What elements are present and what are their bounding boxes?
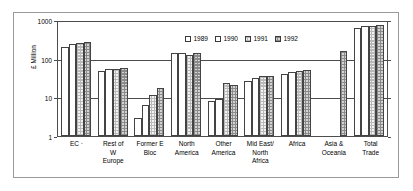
y-axis-tick-mark-right xyxy=(388,98,391,99)
chart-legend: 1989199019911992 xyxy=(185,35,298,42)
bar[interactable] xyxy=(61,47,69,136)
bar[interactable] xyxy=(244,81,252,136)
chart-figure: £ Million 1000100101 1989199019911992 EC… xyxy=(13,12,399,178)
bar[interactable] xyxy=(149,95,157,136)
bar[interactable] xyxy=(142,105,150,136)
bar[interactable] xyxy=(369,26,377,136)
x-axis-category-label: OtherAmerica xyxy=(205,140,242,166)
legend-swatch-icon xyxy=(215,36,221,42)
legend-label: 1992 xyxy=(283,35,297,42)
bar[interactable] xyxy=(340,51,348,136)
bar[interactable] xyxy=(84,42,92,136)
bar[interactable] xyxy=(157,88,165,136)
x-axis-label-line: EC · xyxy=(58,140,95,149)
x-axis-label-line: America xyxy=(205,149,242,158)
x-axis-category-label: EC · xyxy=(58,140,95,166)
y-axis-tick-mark-right xyxy=(388,21,391,22)
bar[interactable] xyxy=(98,71,106,136)
x-axis-label-line: Asia & xyxy=(315,140,352,149)
legend-entry[interactable]: 1989 xyxy=(185,35,208,42)
legend-swatch-icon xyxy=(185,36,191,42)
x-axis-label-line: Total xyxy=(352,140,389,149)
bar-group xyxy=(58,21,95,136)
y-axis-tick-mark-right xyxy=(388,137,391,138)
legend-entry[interactable]: 1992 xyxy=(275,35,298,42)
bar[interactable] xyxy=(267,76,275,136)
bar[interactable] xyxy=(230,85,238,136)
legend-swatch-icon xyxy=(275,36,281,42)
legend-label: 1991 xyxy=(253,35,267,42)
x-axis-label-line: Europe xyxy=(95,157,132,166)
legend-label: 1990 xyxy=(223,35,237,42)
x-axis-label-line: Former E xyxy=(132,140,169,149)
y-axis-tick-mark xyxy=(54,60,57,61)
y-axis-tick-mark-right xyxy=(388,60,391,61)
bar[interactable] xyxy=(76,43,84,136)
bar[interactable] xyxy=(303,70,311,136)
x-axis-category-label: Asia &Oceania xyxy=(315,140,352,166)
x-axis-category-label: TotalTrade xyxy=(352,140,389,166)
bar[interactable] xyxy=(69,44,77,136)
bar-group xyxy=(351,21,388,136)
y-axis-tick-label: 10 xyxy=(45,95,52,102)
x-axis-category-label: Africa xyxy=(279,140,316,166)
x-axis-category-label: Rest ofWEurope xyxy=(95,140,132,166)
plot-area: 1000100101 1989199019911992 xyxy=(57,21,388,137)
x-axis-label-line: North xyxy=(242,149,279,158)
bar[interactable] xyxy=(223,83,231,136)
bar[interactable] xyxy=(193,53,201,136)
bar[interactable] xyxy=(178,53,186,136)
bar-group xyxy=(131,21,168,136)
x-axis-label-line: Africa xyxy=(242,157,279,166)
legend-swatch-icon xyxy=(245,36,251,42)
x-axis-labels: EC ·Rest ofWEuropeFormer EBlocNorthAmeri… xyxy=(58,140,389,166)
x-axis-category-label: NorthAmerica xyxy=(168,140,205,166)
y-axis-tick-mark xyxy=(54,137,57,138)
x-axis-label-line: North xyxy=(168,140,205,149)
bar[interactable] xyxy=(252,78,260,136)
bar[interactable] xyxy=(259,76,267,136)
bar[interactable] xyxy=(296,71,304,136)
y-axis-tick-label: 1 xyxy=(48,134,52,141)
legend-label: 1989 xyxy=(194,35,208,42)
x-axis-label-line: Rest of xyxy=(95,140,132,149)
y-axis-tick-mark xyxy=(54,98,57,99)
bar[interactable] xyxy=(376,25,384,136)
bar[interactable] xyxy=(288,72,296,136)
bar[interactable] xyxy=(113,69,121,136)
x-axis-label-line: Oceania xyxy=(315,149,352,158)
x-axis-label-line: W xyxy=(95,149,132,158)
y-axis-tick-label: 1000 xyxy=(38,18,52,25)
bar[interactable] xyxy=(215,99,223,136)
x-axis-label-line: Bloc xyxy=(132,149,169,158)
x-axis-label-line: Other xyxy=(205,140,242,149)
bar[interactable] xyxy=(186,55,194,136)
x-axis-category-label: Former EBloc xyxy=(132,140,169,166)
x-axis-label-line: Africa xyxy=(279,140,316,149)
bar[interactable] xyxy=(171,53,179,136)
y-axis-tick-mark xyxy=(54,21,57,22)
bar[interactable] xyxy=(208,101,216,136)
bar[interactable] xyxy=(120,68,128,136)
bar[interactable] xyxy=(134,118,142,136)
x-axis-label-line: Trade xyxy=(352,149,389,158)
bar[interactable] xyxy=(281,74,289,136)
x-axis-label-line: America xyxy=(168,149,205,158)
y-axis-tick-label: 100 xyxy=(41,56,52,63)
bar[interactable] xyxy=(354,28,362,136)
legend-entry[interactable]: 1990 xyxy=(215,35,238,42)
bar[interactable] xyxy=(105,69,113,136)
bar[interactable] xyxy=(361,26,369,136)
x-axis-category-label: Mid East/NorthAfrica xyxy=(242,140,279,166)
bar-group xyxy=(314,21,351,136)
bar-group xyxy=(95,21,132,136)
legend-entry[interactable]: 1991 xyxy=(245,35,268,42)
x-axis-label-line: Mid East/ xyxy=(242,140,279,149)
